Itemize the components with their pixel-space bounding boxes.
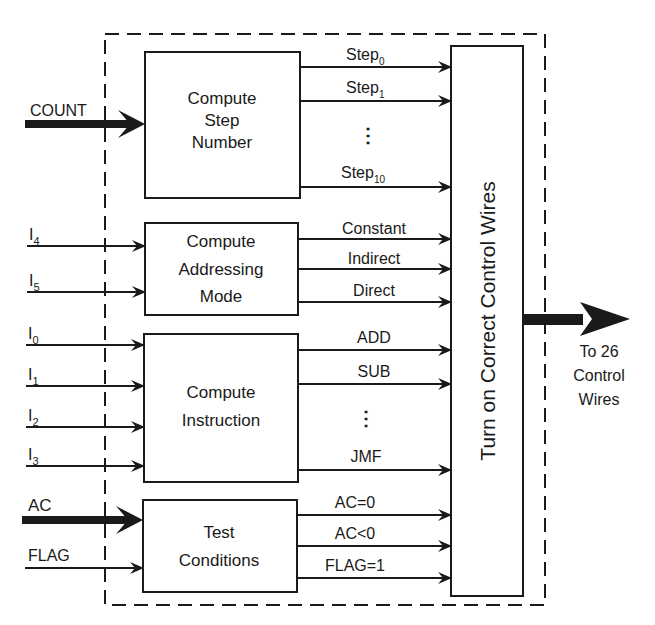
block-compute-addressing-mode: Compute Addressing Mode bbox=[145, 223, 298, 315]
svg-text:To 26: To 26 bbox=[579, 343, 618, 360]
svg-text:I0: I0 bbox=[28, 325, 39, 346]
svg-text:Step10: Step10 bbox=[341, 164, 385, 185]
input-i4: I4 bbox=[27, 226, 145, 247]
signal-flag-one: FLAG=1 bbox=[297, 557, 451, 578]
signal-sub: SUB bbox=[298, 363, 451, 384]
svg-text:I3: I3 bbox=[28, 446, 39, 467]
svg-text:Control: Control bbox=[573, 367, 625, 384]
svg-text:ADD: ADD bbox=[357, 329, 391, 346]
input-flag: FLAG bbox=[25, 547, 143, 568]
block-test-conditions: Test Conditions bbox=[143, 500, 297, 592]
svg-text:Indirect: Indirect bbox=[348, 250, 401, 267]
svg-text:Compute: Compute bbox=[187, 383, 256, 402]
svg-text:Wires: Wires bbox=[579, 391, 620, 408]
svg-text:I5: I5 bbox=[29, 272, 40, 293]
svg-text:COUNT: COUNT bbox=[30, 102, 87, 119]
svg-text:Step0: Step0 bbox=[346, 46, 385, 67]
output-control-wires: To 26 Control Wires bbox=[523, 302, 630, 408]
svg-text:Addressing: Addressing bbox=[178, 260, 263, 279]
svg-text:Turn on Correct Control Wires: Turn on Correct Control Wires bbox=[476, 181, 499, 460]
instruction-ellipsis: ⋮ bbox=[356, 407, 376, 429]
svg-text:Direct: Direct bbox=[353, 282, 395, 299]
svg-text:Step1: Step1 bbox=[346, 79, 385, 100]
step-ellipsis: ⋮ bbox=[358, 124, 378, 146]
signal-add: ADD bbox=[298, 329, 451, 350]
input-i0: I0 bbox=[26, 325, 144, 346]
svg-text:I2: I2 bbox=[28, 407, 39, 428]
svg-text:Mode: Mode bbox=[200, 287, 243, 306]
svg-text:SUB: SUB bbox=[358, 363, 391, 380]
signal-ac-zero: AC=0 bbox=[297, 494, 451, 515]
control-unit-diagram: Compute Step Number Compute Addressing M… bbox=[0, 0, 655, 625]
svg-text:Number: Number bbox=[192, 133, 253, 152]
svg-text:I1: I1 bbox=[28, 366, 39, 387]
input-ac: AC bbox=[22, 496, 143, 534]
svg-text:Conditions: Conditions bbox=[179, 551, 259, 570]
signal-jmf: JMF bbox=[298, 448, 451, 470]
input-i5: I5 bbox=[27, 272, 145, 293]
svg-text:Compute: Compute bbox=[187, 232, 256, 251]
signal-direct: Direct bbox=[298, 282, 451, 302]
svg-text:I4: I4 bbox=[29, 226, 40, 247]
svg-text:AC: AC bbox=[28, 496, 52, 515]
signal-step10: Step10 bbox=[300, 164, 451, 187]
signal-step0: Step0 bbox=[300, 46, 451, 67]
svg-text:AC<0: AC<0 bbox=[335, 525, 376, 542]
svg-text:FLAG=1: FLAG=1 bbox=[325, 557, 385, 574]
svg-text:Compute: Compute bbox=[188, 89, 257, 108]
input-i1: I1 bbox=[26, 366, 144, 387]
svg-text:Test: Test bbox=[203, 523, 234, 542]
block-compute-instruction: Compute Instruction bbox=[144, 334, 298, 482]
block-compute-step-number: Compute Step Number bbox=[145, 52, 300, 198]
svg-text:FLAG: FLAG bbox=[28, 547, 70, 564]
input-i2: I2 bbox=[26, 407, 144, 428]
bus-arrowhead-icon bbox=[580, 302, 630, 336]
signal-constant: Constant bbox=[298, 220, 451, 239]
svg-text:Instruction: Instruction bbox=[182, 411, 260, 430]
input-count: COUNT bbox=[25, 102, 145, 138]
svg-text:Constant: Constant bbox=[342, 220, 407, 237]
svg-text:AC=0: AC=0 bbox=[335, 494, 376, 511]
signal-step1: Step1 bbox=[300, 79, 451, 101]
input-i3: I3 bbox=[26, 446, 144, 467]
svg-text:Step: Step bbox=[205, 111, 240, 130]
block-turn-on-control-wires: Turn on Correct Control Wires bbox=[451, 46, 523, 596]
svg-text:JMF: JMF bbox=[350, 448, 381, 465]
signal-ac-negative: AC<0 bbox=[297, 525, 451, 546]
signal-indirect: Indirect bbox=[298, 250, 451, 269]
